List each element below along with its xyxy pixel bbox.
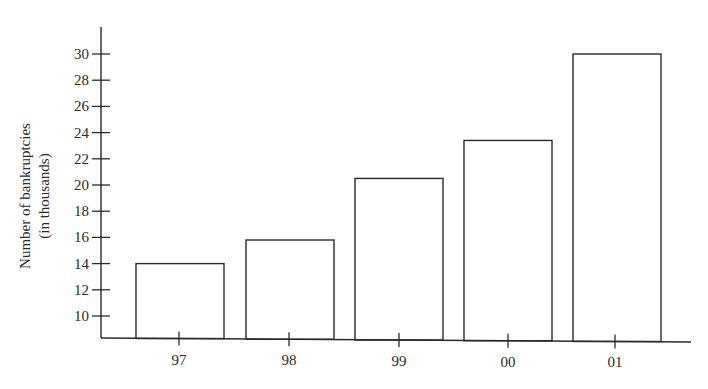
x-tick-label: 98 [282, 352, 297, 368]
bar-97 [136, 264, 224, 339]
bar-00 [464, 140, 552, 340]
x-tick-label: 97 [172, 352, 188, 368]
y-axis-title: Number of bankruptcies(in thousands) [17, 123, 53, 269]
x-tick-label: 01 [608, 354, 623, 370]
bar-98 [246, 240, 334, 339]
bar-01 [573, 54, 661, 341]
y-tick-label: 26 [74, 98, 90, 114]
bar-99 [355, 178, 443, 340]
y-tick-label: 16 [74, 229, 90, 245]
y-axis-ticks: 1012141618202224262830 [74, 46, 110, 324]
bar-chart: Number of bankruptcies(in thousands) 101… [0, 0, 708, 389]
y-axis-title-line: Number of bankruptcies [17, 123, 33, 269]
y-tick-label: 22 [74, 151, 89, 167]
y-tick-label: 28 [74, 72, 89, 88]
y-tick-label: 24 [74, 125, 90, 141]
x-tick-label: 99 [392, 353, 407, 369]
y-tick-label: 18 [74, 203, 89, 219]
y-tick-label: 14 [74, 256, 90, 272]
bars [136, 54, 661, 341]
y-tick-label: 30 [74, 46, 89, 62]
y-tick-label: 20 [74, 177, 89, 193]
y-axis-title-line: (in thousands) [36, 153, 53, 238]
y-tick-label: 10 [74, 308, 89, 324]
x-tick-label: 00 [501, 354, 516, 370]
y-tick-label: 12 [74, 282, 89, 298]
